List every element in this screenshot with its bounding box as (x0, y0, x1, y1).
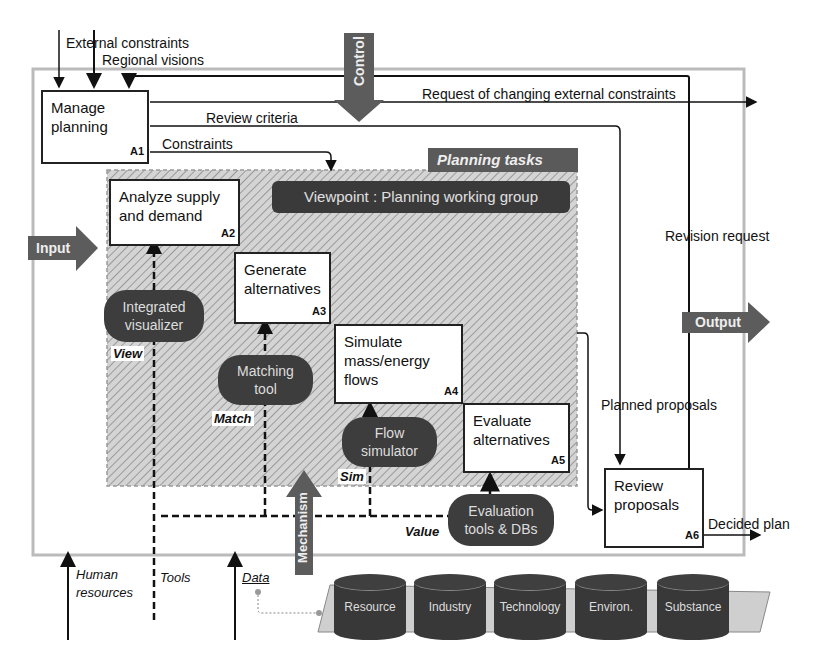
activity-label: alternatives (244, 279, 321, 298)
database-resource[interactable]: Resource (334, 574, 406, 640)
flow-label-review-criteria: Review criteria (206, 110, 298, 126)
activity-code: A4 (444, 382, 458, 401)
activity-label: Evaluate (473, 411, 560, 430)
activity-label: mass/energy (344, 351, 453, 370)
mechanism-tools: Tools (160, 570, 191, 585)
flow-label-planned-proposals: Planned proposals (601, 397, 717, 413)
flow-label-regional-visions: Regional visions (102, 52, 204, 68)
activity-a1-manage-planning[interactable]: Manage planning A1 (41, 90, 149, 164)
tool-tag-value: Value (403, 524, 441, 539)
activity-label: alternatives (473, 430, 560, 449)
flow-label-external-constraints: External constraints (66, 35, 189, 51)
activity-code: A3 (312, 302, 326, 321)
activity-a4-simulate-flows[interactable]: Simulate mass/energy flows A4 (334, 324, 463, 404)
tool-integrated-visualizer[interactable]: Integratedvisualizer (104, 290, 204, 342)
activity-a3-generate-alternatives[interactable]: Generate alternatives A3 (234, 252, 331, 324)
output-label: Output (695, 314, 741, 330)
activity-label: Review (614, 476, 694, 495)
activity-label: planning (51, 117, 139, 136)
flow-label-decided-plan: Decided plan (708, 516, 790, 532)
tool-matching-tool[interactable]: Matchingtool (218, 355, 313, 405)
mechanism-data: Data (242, 570, 269, 585)
tool-tag-sim: Sim (338, 469, 366, 484)
database-environ[interactable]: Environ. (575, 574, 647, 640)
planning-tasks-title: Planning tasks (437, 151, 543, 168)
activity-label: Manage (51, 98, 139, 117)
activity-label: Generate (244, 260, 321, 279)
flow-label-constraints: Constraints (162, 136, 233, 152)
flow-label-request-changing: Request of changing external constraints (422, 86, 676, 102)
activity-a6-review-proposals[interactable]: Review proposals A6 (604, 468, 704, 548)
activity-a5-evaluate-alternatives[interactable]: Evaluate alternatives A5 (463, 403, 570, 473)
mechanism-human-resources: Human resources (76, 566, 133, 602)
activity-label: Analyze supply (119, 187, 230, 206)
activity-code: A5 (551, 451, 565, 470)
activity-code: A6 (685, 526, 699, 545)
input-label: Input (36, 240, 70, 256)
tool-evaluation-tools-dbs[interactable]: Evaluationtools & DBs (448, 494, 554, 546)
viewpoint-banner: Viewpoint : Planning working group (272, 181, 570, 213)
activity-code: A2 (221, 224, 235, 243)
database-technology[interactable]: Technology (494, 574, 566, 640)
activity-label: proposals (614, 495, 694, 514)
activity-label: Simulate (344, 332, 453, 351)
activity-label: flows (344, 370, 453, 389)
database-industry[interactable]: Industry (414, 574, 486, 640)
tool-flow-simulator[interactable]: Flowsimulator (342, 417, 437, 467)
tool-tag-match: Match (212, 411, 254, 426)
activity-code: A1 (130, 142, 144, 161)
mechanism-label: Mechanism (295, 488, 310, 568)
flow-label-revision-request: Revision request (665, 228, 769, 244)
activity-label: and demand (119, 206, 230, 225)
activity-a2-analyze-supply-demand[interactable]: Analyze supply and demand A2 (109, 179, 240, 246)
database-substance[interactable]: Substance (657, 574, 729, 640)
control-label: Control (351, 46, 367, 86)
tool-tag-view: View (111, 346, 144, 361)
